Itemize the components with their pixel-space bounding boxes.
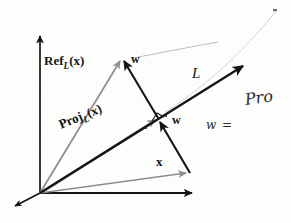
dot-mark-proj <box>145 127 147 129</box>
annotation-handwriting-right: Pro <box>244 88 274 108</box>
label-vector-w-lower: w <box>172 114 181 126</box>
vector-w-lower <box>160 122 190 173</box>
figure-canvas: RefL(x) ProjL(x) L x w w Pro w = <box>0 0 291 223</box>
coordinate-axes <box>15 36 192 206</box>
z-axis <box>15 193 40 206</box>
label-reflection-base: Ref <box>44 53 64 68</box>
leader-tip-mark <box>273 9 277 11</box>
annotation-handwriting-center: w = <box>206 119 233 131</box>
vector-diagram <box>0 0 291 223</box>
leader-line-w-upper <box>133 42 218 58</box>
label-line-L: L <box>192 66 200 81</box>
dot-mark-foot <box>165 115 167 117</box>
vector-w-upper <box>124 61 158 118</box>
label-reflection-arg: (x) <box>69 53 84 68</box>
vector-x <box>40 173 186 193</box>
label-reflection: RefL(x) <box>44 54 84 71</box>
label-vector-x: x <box>156 155 163 168</box>
label-vector-w-upper: w <box>131 53 140 65</box>
